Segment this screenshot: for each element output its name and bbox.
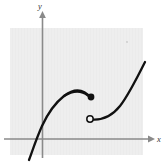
x-axis-label: x	[156, 134, 161, 144]
speck-mark	[126, 41, 128, 43]
y-axis-label: y	[37, 1, 42, 11]
graph-svg: y x	[0, 0, 166, 163]
x-axis-arrowhead	[148, 136, 155, 143]
y-axis-arrowhead	[39, 11, 46, 18]
open-endpoint-marker	[87, 116, 93, 122]
closed-endpoint-marker	[88, 94, 95, 101]
math-graph-figure: y x	[0, 0, 166, 163]
